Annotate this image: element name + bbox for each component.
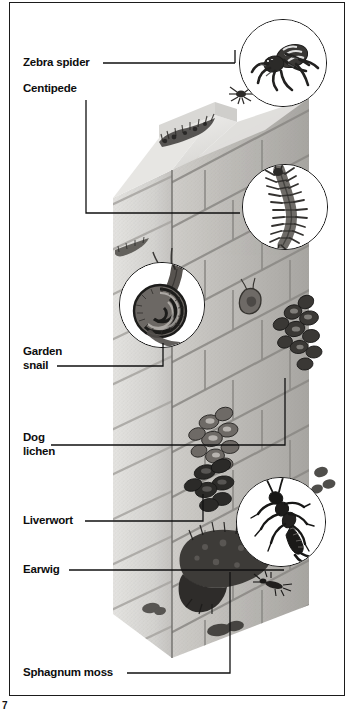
label-liverwort: Liverwort	[23, 514, 73, 528]
label-dog-lichen: Dog lichen	[23, 431, 55, 458]
label-earwig: Earwig	[23, 563, 60, 577]
page-root: Zebra spider Centipede Garden snail Dog …	[0, 0, 357, 717]
label-garden-snail: Garden snail	[23, 345, 62, 372]
label-sphagnum-moss: Sphagnum moss	[23, 666, 113, 680]
label-zebra-spider: Zebra spider	[23, 56, 90, 70]
centipede-inset	[242, 164, 328, 250]
earwig-drawing	[237, 478, 326, 567]
zebra-spider-drawing	[240, 20, 327, 107]
earwig-inset	[236, 477, 326, 567]
garden-snail-drawing	[120, 263, 205, 348]
garden-snail-inset	[119, 262, 205, 348]
label-centipede: Centipede	[23, 82, 77, 96]
zebra-spider-inset	[239, 19, 327, 107]
page-number: 7	[2, 700, 8, 711]
centipede-drawing	[243, 165, 328, 250]
